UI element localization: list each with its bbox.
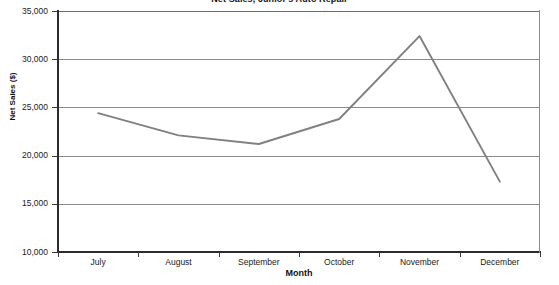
- chart-container: Net Sales, Junior's Auto Repair Net Sale…: [0, 0, 559, 285]
- net-sales-line-series: [0, 0, 559, 285]
- net-sales-polyline: [98, 36, 500, 182]
